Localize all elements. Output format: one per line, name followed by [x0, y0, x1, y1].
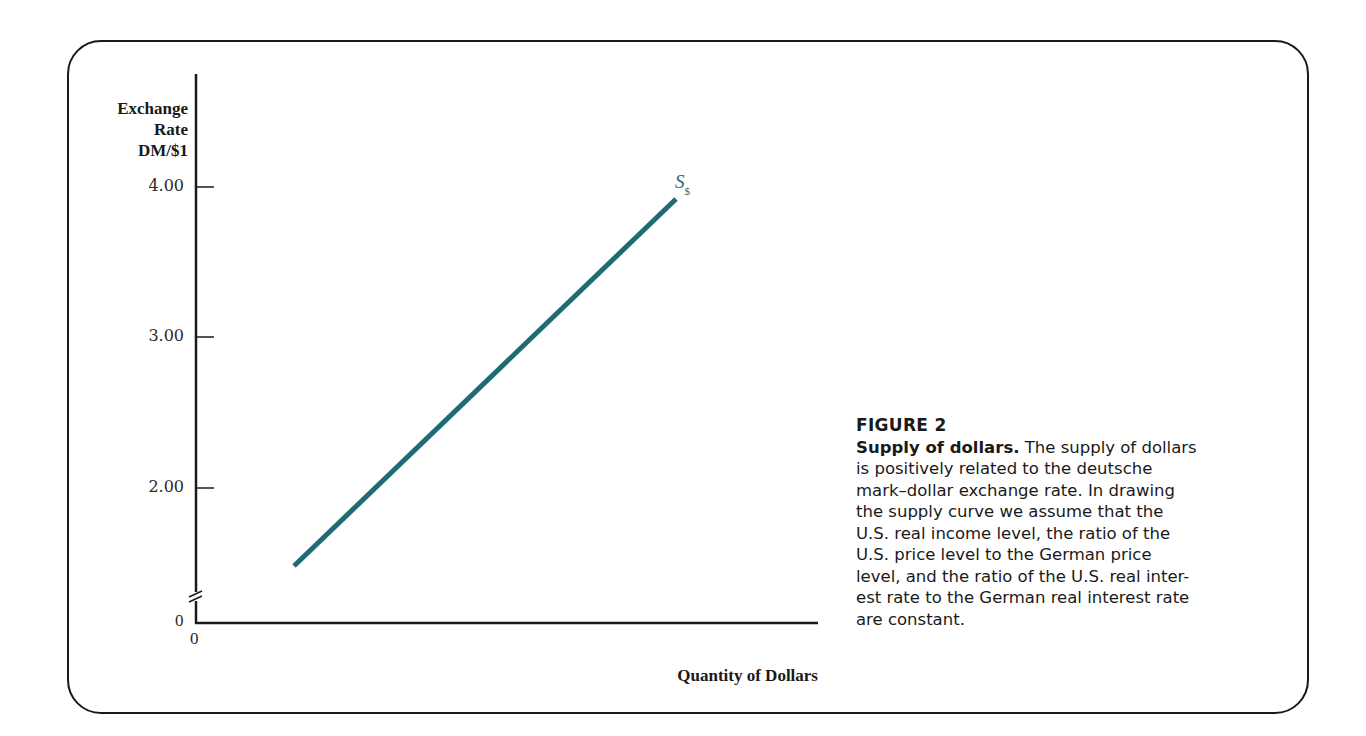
caption-line-7: level, and the ratio of the U.S. real in… — [856, 566, 1256, 588]
y-axis-label: Exchange Rate DM/$1 — [96, 98, 188, 161]
y-origin-label: 0 — [175, 611, 184, 631]
y-axis-label-line-2: Rate — [96, 119, 188, 140]
figure-number: FIGURE 2 — [856, 415, 1256, 437]
caption-line-6: U.S. price level to the German price — [856, 544, 1256, 566]
caption-line-4: the supply curve we assume that the — [856, 501, 1256, 523]
caption-line-8: est rate to the German real interest rat… — [856, 587, 1256, 609]
x-origin-label: 0 — [190, 629, 199, 649]
supply-curve-label-main: S — [675, 171, 685, 192]
caption-line-1-body: The supply of dollars — [1020, 438, 1197, 457]
caption-line-9: are constant. — [856, 609, 1256, 631]
y-tick-label-4: 4.00 — [124, 176, 184, 195]
caption-line-1: Supply of dollars. The supply of dollars — [856, 437, 1256, 459]
supply-curve-label: S$ — [675, 171, 690, 195]
caption-line-2: is positively related to the deutsche — [856, 458, 1256, 480]
y-axis-label-line-1: Exchange — [96, 98, 188, 119]
caption-line-3: mark–dollar exchange rate. In drawing — [856, 480, 1256, 502]
figure-caption: FIGURE 2 Supply of dollars. The supply o… — [856, 415, 1256, 630]
y-axis-label-line-3: DM/$1 — [96, 140, 188, 161]
supply-curve-label-sub: $ — [685, 185, 691, 197]
y-tick-label-3: 3.00 — [124, 326, 184, 345]
y-tick-label-2: 2.00 — [124, 477, 184, 496]
supply-curve — [294, 199, 676, 566]
x-axis-label: Quantity of Dollars — [608, 666, 818, 686]
caption-lead: Supply of dollars. — [856, 438, 1020, 457]
caption-line-5: U.S. real income level, the ratio of the — [856, 523, 1256, 545]
axis-break-icon — [189, 591, 202, 602]
